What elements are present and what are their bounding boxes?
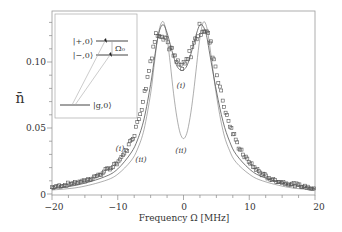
level-minus-label: |−,0⟩ — [73, 51, 93, 60]
data-point — [197, 35, 200, 38]
annotation-i-flank: (i) — [116, 144, 125, 153]
level-ground-label: |g,0⟩ — [93, 101, 112, 110]
data-point — [133, 134, 136, 137]
splitting-label: Ω₀ — [115, 44, 125, 53]
data-point — [137, 118, 140, 121]
data-point — [152, 45, 155, 48]
data-point — [127, 143, 130, 146]
x-tick-label-10: 10 — [244, 202, 256, 212]
annotation-ii-flank: (ii) — [135, 155, 146, 164]
data-point — [227, 120, 230, 123]
annotation-ii-dip: (ii) — [175, 146, 186, 155]
data-point — [134, 125, 137, 128]
data-point — [214, 65, 217, 68]
data-point — [146, 76, 149, 79]
data-point — [139, 113, 142, 116]
data-point — [140, 108, 143, 111]
level-plus-label: |+,0⟩ — [73, 37, 93, 46]
data-point — [153, 40, 156, 43]
data-point — [147, 70, 150, 73]
x-axis-label: Frequency Ω [MHz] — [139, 213, 230, 223]
y-tick-label-0: 0 — [40, 190, 46, 200]
chart: 0 0.05 0.10 −20 −10 0 10 20 Frequency Ω … — [0, 0, 342, 232]
y-axis-label: n̄ — [15, 90, 24, 106]
data-point — [215, 74, 218, 77]
data-point — [218, 85, 221, 88]
data-point — [217, 81, 220, 84]
x-tick-label-m10: −10 — [109, 202, 128, 212]
data-point — [221, 99, 224, 102]
data-point — [223, 106, 226, 109]
annotation-i-dip: (i) — [177, 81, 186, 90]
data-point — [220, 89, 223, 92]
x-tick-label-0: 0 — [181, 202, 187, 212]
data-point — [136, 121, 139, 124]
inset-level-diagram: |+,0⟩ |−,0⟩ |g,0⟩ Ω₀ — [55, 14, 137, 118]
y-tick-label-010: 0.10 — [26, 57, 46, 67]
data-point — [188, 49, 191, 52]
y-tick-label-005: 0.05 — [26, 123, 46, 133]
data-point — [142, 101, 145, 104]
x-tick-label-m20: −20 — [45, 202, 64, 212]
x-tick-label-20: 20 — [313, 202, 325, 212]
